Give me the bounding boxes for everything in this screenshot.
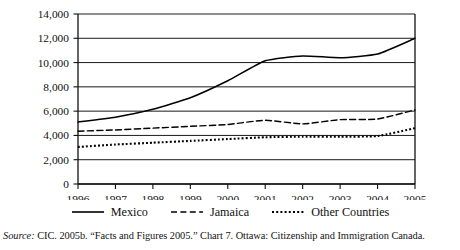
- source-text: CIC. 2005b. “Facts and Figures 2005.” Ch…: [35, 230, 425, 241]
- y-axis-tick-label: 10,000: [38, 57, 70, 69]
- x-axis-tickmarks: [78, 184, 415, 189]
- y-axis-tick-label: 6,000: [43, 105, 69, 117]
- legend-label-mexico: Mexico: [111, 205, 148, 220]
- x-axis-tick-labels: 1996199719981999200020012002200320042005: [67, 193, 427, 201]
- plot-frame: [78, 14, 415, 184]
- x-axis-tick-label: 2002: [291, 193, 314, 201]
- chart-plot-area: 02,0004,0006,0008,00010,00012,00014,000 …: [0, 0, 460, 200]
- x-axis-tick-label: 2004: [366, 193, 389, 201]
- y-axis-tick-label: 0: [63, 178, 69, 190]
- x-axis-tick-label: 1998: [141, 193, 164, 201]
- dashed-line-swatch: [170, 207, 204, 217]
- x-axis-tick-label: 1996: [67, 193, 90, 201]
- y-axis-tick-label: 12,000: [38, 32, 70, 44]
- data-series-group: [78, 38, 415, 147]
- y-gridlines: [78, 14, 415, 184]
- series-line-other-countries: [78, 128, 415, 147]
- legend-label-other-countries: Other Countries: [311, 205, 389, 220]
- solid-line-swatch: [71, 207, 105, 217]
- chart-legend: Mexico Jamaica Other Countries: [0, 202, 460, 222]
- y-axis-tick-label: 14,000: [38, 8, 70, 20]
- y-axis-tick-labels: 02,0004,0006,0008,00010,00012,00014,000: [38, 8, 70, 190]
- source-label: Source:: [3, 230, 35, 241]
- legend-item-other-countries: Other Countries: [271, 205, 389, 220]
- x-axis-tick-label: 2003: [329, 193, 352, 201]
- legend-item-jamaica: Jamaica: [170, 205, 249, 220]
- x-axis-tick-label: 2000: [216, 193, 239, 201]
- y-axis-tickmarks: [74, 14, 79, 184]
- source-note: Source: CIC. 2005b. “Facts and Figures 2…: [3, 230, 459, 241]
- x-axis-tick-label: 2005: [404, 193, 427, 201]
- series-line-jamaica: [78, 110, 415, 131]
- series-line-mexico: [78, 38, 415, 122]
- figure: 02,0004,0006,0008,00010,00012,00014,000 …: [0, 0, 460, 250]
- y-axis-tick-label: 8,000: [43, 81, 69, 93]
- x-axis-tick-label: 2001: [254, 193, 277, 201]
- x-axis-tick-label: 1999: [179, 193, 202, 201]
- legend-item-mexico: Mexico: [71, 205, 148, 220]
- line-chart: 02,0004,0006,0008,00010,00012,00014,000 …: [0, 0, 460, 200]
- y-axis-tick-label: 2,000: [43, 154, 69, 166]
- dotted-line-swatch: [271, 207, 305, 217]
- legend-label-jamaica: Jamaica: [210, 205, 249, 220]
- y-axis-tick-label: 4,000: [43, 129, 69, 141]
- x-axis-tick-label: 1997: [104, 193, 127, 201]
